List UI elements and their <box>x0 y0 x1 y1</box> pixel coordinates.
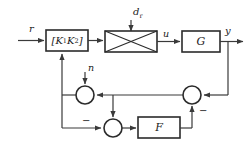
minus-sign-right-sum: − <box>199 105 207 116</box>
reference-input-label: r <box>29 23 34 34</box>
controller-k1: K <box>55 35 62 46</box>
diagram-canvas <box>0 0 245 151</box>
left-summing-junction <box>76 86 94 104</box>
bottom-summing-junction <box>104 119 122 137</box>
controller-bracket-close: ] <box>79 35 83 46</box>
filter-block-label: F <box>138 117 180 138</box>
controller-block-label: [K1K2] <box>46 30 88 51</box>
controller-k2: K <box>67 35 74 46</box>
plant-block-label: G <box>182 31 220 52</box>
control-signal-label: u <box>163 28 169 39</box>
noise-label: n <box>88 62 94 73</box>
disturbance-subscript: r <box>139 12 142 20</box>
block-diagram: r [K1K2] dr u G y n F − − <box>0 0 245 151</box>
output-label: y <box>225 25 231 36</box>
right-summing-junction <box>183 86 201 104</box>
disturbance-label: dr <box>133 6 143 20</box>
minus-sign-bottom-sum: − <box>82 115 90 126</box>
